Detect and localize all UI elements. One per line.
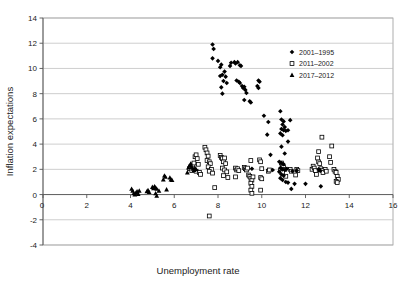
data-point-square [250, 184, 254, 188]
data-point-square [315, 172, 319, 176]
data-point-square [317, 150, 321, 154]
y-tick-label: -2 [30, 216, 38, 225]
chart-figure: -4-2024681012142468101214160Unemployment… [0, 0, 404, 299]
data-point-square [329, 160, 333, 164]
y-tick-label: 6 [33, 115, 38, 124]
y-tick-label: 12 [28, 39, 37, 48]
data-point-square [335, 181, 339, 185]
y-tick-label: 4 [33, 140, 38, 149]
x-tick-label: 14 [345, 201, 354, 210]
data-point-square [249, 159, 253, 163]
data-point-square [250, 191, 254, 195]
data-point-square [213, 186, 217, 190]
x-tick-label: 6 [172, 201, 177, 210]
y-tick-label: 2 [33, 165, 38, 174]
y-tick-label: 10 [28, 64, 37, 73]
x-tick-label: 16 [389, 201, 398, 210]
plot-area-background [43, 18, 393, 245]
data-point-square [194, 153, 198, 157]
data-point-square [224, 162, 228, 166]
data-point-square [318, 162, 322, 166]
legend-label: 2011–2002 [299, 60, 334, 67]
data-point-square [207, 214, 211, 218]
data-point-square [334, 171, 338, 175]
data-point-square [320, 135, 324, 139]
data-point-square [324, 169, 328, 173]
x-tick-label: 2 [85, 201, 90, 210]
y-axis-title: Inflation expectations [4, 87, 15, 177]
data-point-square [294, 173, 298, 177]
scatter-plot: -4-2024681012142468101214160Unemployment… [0, 0, 404, 299]
y-tick-label: 0 [33, 191, 38, 200]
x-tick-label: 12 [301, 201, 310, 210]
data-point-square [328, 155, 332, 159]
data-point-square [330, 144, 334, 148]
data-point-square [192, 161, 196, 165]
data-point-square [206, 154, 210, 158]
data-point-square [199, 172, 203, 176]
legend-marker-square [290, 62, 294, 66]
x-tick-label: 8 [216, 201, 221, 210]
data-point-square [234, 175, 238, 179]
x-axis-title: Unemployment rate [157, 265, 240, 276]
data-point-square [237, 169, 241, 173]
data-point-square [225, 170, 229, 174]
legend-label: 2001–1995 [299, 49, 334, 56]
data-point-square [259, 188, 263, 192]
data-point-square [195, 157, 199, 161]
data-point-square [316, 156, 320, 160]
data-point-square [223, 156, 227, 160]
data-point-square [246, 166, 250, 170]
data-point-square [251, 175, 255, 179]
data-point-square [259, 160, 263, 164]
x-tick-label: 4 [128, 201, 133, 210]
legend-label: 2017–2012 [299, 72, 334, 79]
data-point-square [211, 171, 215, 175]
x-tick-label: 10 [257, 201, 266, 210]
y-tick-label: 14 [28, 14, 37, 23]
x-origin-label: 0 [40, 201, 45, 210]
data-point-square [260, 167, 264, 171]
y-tick-label: -4 [30, 241, 38, 250]
data-point-square [196, 162, 200, 166]
data-point-square [260, 177, 264, 181]
y-axis-ticks: -4-202468101214 [28, 14, 43, 250]
y-tick-label: 8 [33, 90, 38, 99]
data-point-square [222, 174, 226, 178]
data-point-square [226, 176, 230, 180]
